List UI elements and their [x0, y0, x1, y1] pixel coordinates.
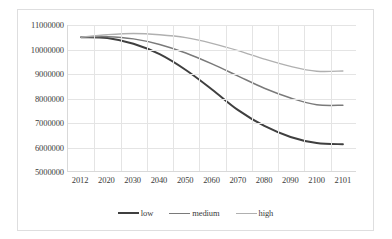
x-axis-tick-label: 2040 — [151, 175, 168, 186]
y-axis-tick-label: 7000000 — [2, 118, 64, 128]
legend-item-low[interactable]: low — [118, 208, 153, 218]
gridline-vertical — [147, 25, 148, 171]
gridline-horizontal — [68, 50, 356, 51]
x-axis-tick-label: 2020 — [98, 175, 115, 186]
plot-area — [67, 25, 356, 172]
x-axis-tick-label: 2060 — [203, 175, 220, 186]
y-axis-tick-label: 8000000 — [2, 94, 64, 104]
gridline-horizontal — [68, 99, 356, 100]
gridline-vertical — [226, 25, 227, 171]
gridline-vertical — [252, 25, 253, 171]
legend-swatch-medium — [169, 213, 190, 214]
y-axis: 5000000600000070000008000000900000010000… — [0, 0, 64, 239]
gridline-vertical — [94, 25, 95, 171]
y-axis-tick-label: 5000000 — [2, 167, 64, 177]
chart-container: 5000000600000070000008000000900000010000… — [0, 0, 392, 239]
legend-label-low: low — [141, 208, 153, 218]
x-axis-tick-label: 2080 — [256, 175, 273, 186]
legend-label-high: high — [259, 208, 274, 218]
y-axis-tick-label: 11000000 — [2, 20, 64, 30]
gridline-horizontal — [68, 123, 356, 124]
legend-label-medium: medium — [192, 208, 219, 218]
legend-item-medium[interactable]: medium — [169, 208, 219, 218]
x-axis-tick-label: 2101 — [335, 175, 352, 186]
gridline-vertical — [331, 25, 332, 171]
y-axis-tick-label: 9000000 — [2, 69, 64, 79]
gridline-vertical — [121, 25, 122, 171]
x-axis-tick-label: 2030 — [124, 175, 141, 186]
gridline-vertical — [304, 25, 305, 171]
x-axis-tick-label: 2070 — [229, 175, 246, 186]
gridline-vertical — [173, 25, 174, 171]
gridline-vertical — [199, 25, 200, 171]
y-axis-tick-label: 6000000 — [2, 143, 64, 153]
legend-swatch-high — [236, 213, 257, 214]
x-axis-tick-label: 2090 — [282, 175, 299, 186]
x-axis-tick-label: 2050 — [177, 175, 194, 186]
legend-item-high[interactable]: high — [236, 208, 274, 218]
gridline-horizontal — [68, 74, 356, 75]
y-axis-tick-label: 10000000 — [2, 45, 64, 55]
legend-swatch-low — [118, 212, 139, 214]
gridline-vertical — [278, 25, 279, 171]
gridline-horizontal — [68, 25, 356, 26]
chart-legend: lowmediumhigh — [17, 205, 374, 221]
x-axis: 2012202020302040205020602070208020902100… — [67, 175, 356, 189]
x-axis-tick-label: 2012 — [72, 175, 89, 186]
x-axis-tick-label: 2100 — [308, 175, 325, 186]
gridline-horizontal — [68, 148, 356, 149]
